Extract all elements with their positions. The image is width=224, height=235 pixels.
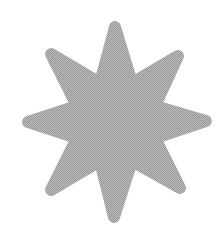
starburst-graphic [0, 0, 224, 235]
canvas [0, 0, 224, 235]
eight-point-star-shape [28, 27, 206, 217]
